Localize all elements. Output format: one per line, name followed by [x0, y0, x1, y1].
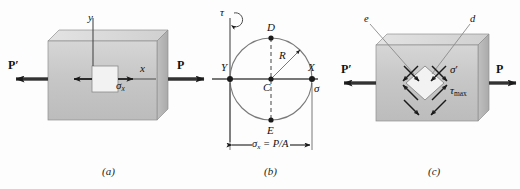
normal-stress-prime-mark: ′	[455, 63, 457, 75]
axis-sigma-label: σ	[314, 83, 319, 94]
load-label-p-prime-a-mark: ′	[15, 58, 18, 72]
mohr-point-e	[268, 117, 273, 122]
axis-y-label-a: y	[88, 12, 93, 23]
load-label-p-c: P	[496, 63, 503, 75]
mohr-label-d: D	[267, 22, 275, 33]
plane-label-e: e	[364, 14, 369, 25]
caption-b: (b)	[264, 166, 277, 177]
block-a-side-face	[157, 30, 168, 120]
mohr-dimension-label: σx = P/A	[252, 139, 288, 151]
plane-label-d: d	[470, 14, 475, 25]
normal-stress-label-c: σ′	[450, 64, 458, 75]
load-label-p-prime-c-mark: ′	[348, 62, 351, 76]
panel-c	[344, 24, 516, 121]
mohr-label-c: C	[263, 82, 270, 93]
load-label-p-a: P	[177, 59, 184, 71]
panel-a	[16, 18, 204, 120]
block-c-side-face	[478, 34, 489, 121]
mohr-dimension-rest: = P/A	[260, 138, 288, 149]
caption-a: (a)	[102, 166, 115, 177]
block-a-top-face	[48, 30, 168, 41]
stress-element-a	[92, 66, 118, 92]
load-label-p-prime-c: P′	[341, 63, 352, 75]
stress-mohr-circle-figure	[0, 0, 520, 189]
mohr-point-d	[268, 35, 273, 40]
load-label-p-prime-a: P′	[8, 59, 19, 71]
mohr-label-y: Y	[221, 62, 227, 73]
mohr-label-x: X	[308, 62, 315, 73]
sigma-x-label-a: σx	[116, 80, 125, 93]
axis-x-label-a: x	[140, 63, 145, 74]
mohr-label-radius: R	[279, 50, 286, 61]
tau-rotation-arrow	[232, 13, 243, 27]
axis-tau-label: τ	[220, 7, 224, 18]
shear-stress-label-c: τmax	[450, 85, 467, 98]
mohr-point-y	[227, 76, 233, 82]
shear-stress-subscript: max	[454, 89, 467, 98]
mohr-label-e: E	[267, 125, 274, 136]
caption-c: (c)	[428, 166, 440, 177]
block-c-top-face	[376, 34, 489, 45]
sigma-x-subscript: x	[121, 84, 124, 93]
